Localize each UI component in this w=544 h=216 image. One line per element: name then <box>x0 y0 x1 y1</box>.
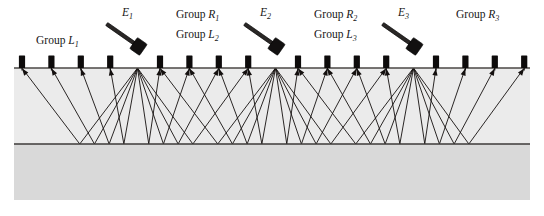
source-hammer-group <box>103 19 424 56</box>
shot-label-E2-subscript: 2 <box>267 12 271 21</box>
group-label-R3-word: Group <box>456 8 488 21</box>
geophone-3[interactable] <box>78 56 84 69</box>
shot-label-E1-subscript: 1 <box>129 12 133 21</box>
geophone-12[interactable] <box>383 56 389 69</box>
shot-label-E2-letter: E <box>259 6 267 18</box>
group-label-R2-subscript: 2 <box>353 14 357 23</box>
shot-label-E2: E2 <box>259 6 271 21</box>
geophone-6[interactable] <box>186 56 192 69</box>
hammer-handle-E2 <box>244 22 274 44</box>
shot-label-E3-subscript: 3 <box>404 12 409 21</box>
geophone-1[interactable] <box>19 56 25 69</box>
geophone-13[interactable] <box>433 56 439 69</box>
geophone-7[interactable] <box>216 56 222 69</box>
shot-label-E1: E1 <box>121 6 133 21</box>
group-label-R3-letter: R <box>487 8 495 20</box>
shot-label-E1-letter: E <box>121 6 129 18</box>
group-label-L1-word: Group <box>36 34 68 47</box>
group-label-R3: Group R3 <box>456 8 499 23</box>
group-label-R2: Group R2 <box>314 8 357 23</box>
survey-diagram-canvas: Group L1Group R1Group L2Group R2Group L3… <box>0 0 544 216</box>
seismic-source-hammer-E1[interactable] <box>103 19 148 56</box>
geophone-15[interactable] <box>492 56 498 69</box>
group-label-R1-word: Group <box>176 8 208 21</box>
geophone-8[interactable] <box>245 56 251 69</box>
hammer-handle-E3 <box>382 22 412 44</box>
geophone-16[interactable] <box>521 56 527 69</box>
geophone-5[interactable] <box>157 56 163 69</box>
group-label-R1: Group R1 <box>176 8 219 23</box>
geophone-9[interactable] <box>295 56 301 69</box>
hammer-handle-E1 <box>106 22 136 44</box>
group-label-R1-subscript: 1 <box>215 14 219 23</box>
group-label-L2-letter: L <box>207 28 214 40</box>
seismic-source-hammer-E2[interactable] <box>241 19 286 56</box>
group-label-R3-subscript: 3 <box>494 14 499 23</box>
seismic-source-hammer-E3[interactable] <box>379 19 424 56</box>
group-label-L2-word: Group <box>176 28 208 41</box>
group-label-L3-subscript: 3 <box>352 34 357 43</box>
geophone-4[interactable] <box>107 56 113 69</box>
group-label-L1-letter: L <box>67 34 74 46</box>
group-label-L3-letter: L <box>345 28 352 40</box>
group-label-R2-letter: R <box>345 8 353 20</box>
shot-label-E3: E3 <box>397 6 409 21</box>
group-label-L2-subscript: 2 <box>215 34 219 43</box>
group-label-L3: Group L3 <box>314 28 357 43</box>
shot-label-E3-letter: E <box>397 6 405 18</box>
geophone-11[interactable] <box>354 56 360 69</box>
group-label-R2-word: Group <box>314 8 346 21</box>
lower-layer-band <box>14 144 530 200</box>
group-label-R1-letter: R <box>207 8 215 20</box>
group-label-L1: Group L1 <box>36 34 79 49</box>
group-label-L1-subscript: 1 <box>75 40 79 49</box>
geophone-14[interactable] <box>462 56 468 69</box>
group-label-L3-word: Group <box>314 28 346 41</box>
geophone-2[interactable] <box>48 56 54 69</box>
group-label-L2: Group L2 <box>176 28 219 43</box>
geophone-10[interactable] <box>324 56 330 69</box>
seismic-survey-figure: Group L1Group R1Group L2Group R2Group L3… <box>0 0 544 216</box>
